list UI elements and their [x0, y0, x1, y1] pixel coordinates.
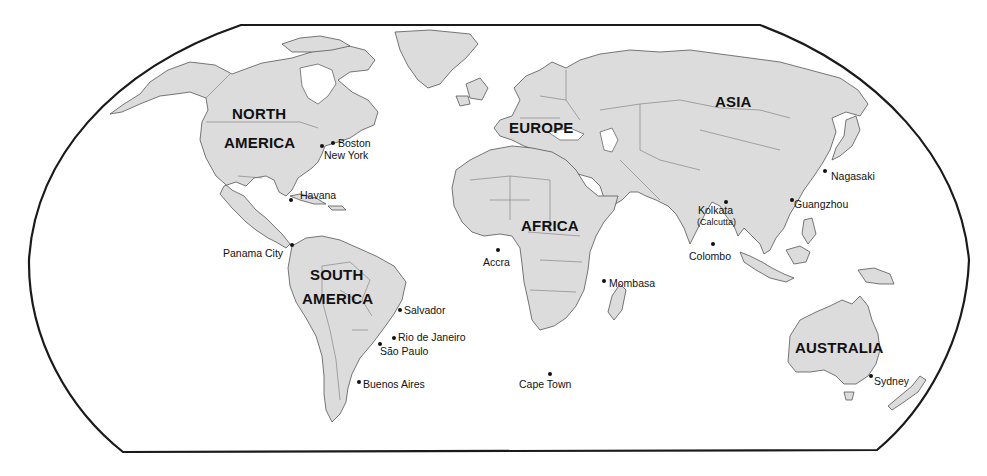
city-label-kolkata: Kolkata	[698, 205, 733, 216]
label-south-america-line1: SOUTH	[310, 267, 364, 282]
city-dot-boston	[331, 141, 335, 145]
city-dot-panama-city	[290, 243, 294, 247]
city-dot-mombasa	[602, 279, 606, 283]
world-map	[0, 0, 987, 476]
city-label-rio-de-janeiro: Rio de Janeiro	[398, 332, 466, 343]
city-label-salvador: Salvador	[404, 305, 445, 316]
city-label-boston: Boston	[338, 138, 371, 149]
label-africa: AFRICA	[521, 218, 579, 233]
city-label-kolkata-alt: (Calcutta)	[697, 218, 736, 227]
city-dot-sydney	[869, 374, 873, 378]
city-dot-salvador	[398, 308, 402, 312]
city-dot-havana	[289, 198, 293, 202]
city-label-sao-paulo: São Paulo	[380, 346, 428, 357]
city-label-buenos-aires: Buenos Aires	[363, 379, 425, 390]
label-europe: EUROPE	[509, 120, 574, 135]
city-dot-colombo	[711, 242, 715, 246]
label-north-america-line2: AMERICA	[224, 135, 295, 150]
city-dot-rio-de-janeiro	[392, 336, 396, 340]
city-label-accra: Accra	[483, 257, 510, 268]
city-dot-accra	[496, 248, 500, 252]
city-label-colombo: Colombo	[689, 251, 731, 262]
city-dot-buenos-aires	[357, 380, 361, 384]
city-dot-nagasaki	[823, 169, 827, 173]
city-label-guangzhou: Guangzhou	[794, 199, 848, 210]
label-north-america-line1: NORTH	[232, 106, 286, 121]
city-label-cape-town: Cape Town	[519, 379, 571, 390]
city-label-mombasa: Mombasa	[609, 278, 655, 289]
label-asia: ASIA	[715, 94, 752, 109]
city-dot-new-york	[320, 144, 324, 148]
city-label-panama-city: Panama City	[223, 248, 283, 259]
south-america-landmass	[288, 236, 406, 422]
label-australia: AUSTRALIA	[795, 340, 883, 355]
city-dot-cape-town	[548, 372, 552, 376]
city-label-new-york: New York	[324, 150, 368, 161]
city-label-nagasaki: Nagasaki	[831, 171, 875, 182]
city-label-havana: Havana	[300, 190, 336, 201]
city-label-sydney: Sydney	[874, 376, 909, 387]
label-south-america-line2: AMERICA	[302, 291, 373, 306]
